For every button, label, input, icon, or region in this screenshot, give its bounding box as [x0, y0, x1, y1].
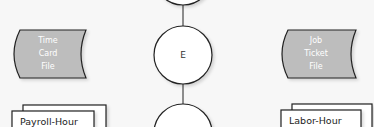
process-node-bottom[interactable] — [154, 104, 212, 127]
file-time-card[interactable]: Time Card File — [14, 30, 86, 78]
file-label-line: Time — [37, 36, 58, 45]
process-node-label: E — [180, 50, 186, 60]
file-label-line: File — [41, 62, 54, 71]
file-job-ticket[interactable]: Job Ticket File — [282, 30, 356, 78]
process-node-e[interactable]: E — [154, 26, 212, 84]
flowchart-canvas: E Time Card File Job Ticket File Payroll… — [0, 0, 374, 127]
document-labor-hour[interactable]: Labor-Hour — [281, 104, 372, 127]
document-payroll-hour[interactable]: Payroll-Hour — [12, 105, 106, 127]
file-label-line: Ticket — [303, 49, 328, 58]
document-label: Payroll-Hour — [20, 116, 78, 127]
document-label: Labor-Hour — [289, 115, 342, 126]
file-label-line: File — [309, 62, 322, 71]
process-node-top[interactable] — [154, 0, 212, 5]
file-label-line: Job — [309, 36, 322, 45]
file-label-line: Card — [39, 49, 58, 58]
